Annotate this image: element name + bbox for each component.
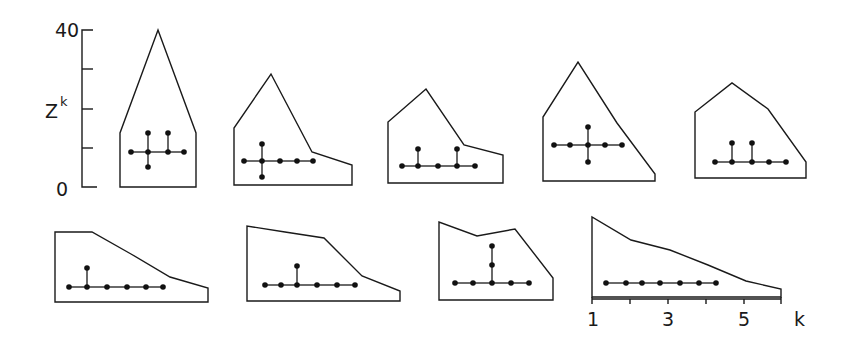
tree-node xyxy=(399,163,405,169)
y-axis-title: Z xyxy=(45,100,58,122)
tree-graph xyxy=(452,243,532,286)
x-axis: 1 3 5 k xyxy=(587,297,805,330)
tree-node xyxy=(277,158,283,164)
tree-node xyxy=(435,163,441,169)
tree-node xyxy=(452,280,458,286)
x-tick-label-5: 5 xyxy=(738,308,750,330)
tree-node xyxy=(623,280,629,286)
tree-node xyxy=(415,163,421,169)
tree-node xyxy=(585,142,591,148)
tree-node xyxy=(310,158,316,164)
panel-9 xyxy=(592,217,781,297)
tree-node xyxy=(314,282,320,288)
tree-node xyxy=(143,284,149,290)
profile-outline xyxy=(55,232,208,302)
tree-node xyxy=(181,149,187,155)
profile-outline xyxy=(388,89,503,183)
profile-outline xyxy=(247,226,400,301)
tree-node xyxy=(602,142,608,148)
tree-node xyxy=(415,146,421,152)
profile-outline xyxy=(234,74,352,185)
tree-node xyxy=(749,159,755,165)
tree-node xyxy=(454,146,460,152)
tree-node xyxy=(489,243,495,249)
tree-node xyxy=(334,282,340,288)
y-tick-label-0: 0 xyxy=(56,178,68,200)
tree-graph xyxy=(603,280,719,286)
tree-node xyxy=(619,142,625,148)
panel-8 xyxy=(439,222,553,300)
tree-node xyxy=(729,159,735,165)
tree-node xyxy=(165,130,171,136)
x-axis-title: k xyxy=(794,308,805,330)
panels-group xyxy=(55,30,806,302)
tree-node xyxy=(712,159,718,165)
profile-outline xyxy=(592,217,781,297)
tree-node xyxy=(84,284,90,290)
tree-graph xyxy=(551,124,625,165)
tree-node xyxy=(489,262,495,268)
tree-node xyxy=(294,158,300,164)
tree-node xyxy=(262,282,268,288)
x-tick-label-3: 3 xyxy=(662,308,674,330)
y-axis-title-superscript: k xyxy=(60,94,68,109)
tree-node xyxy=(259,174,265,180)
profile-outline xyxy=(543,62,655,181)
panel-2 xyxy=(234,74,352,185)
profile-outline xyxy=(439,222,553,300)
tree-node xyxy=(551,142,557,148)
tree-node xyxy=(696,280,702,286)
tree-node xyxy=(145,149,151,155)
tree-node xyxy=(585,159,591,165)
tree-graph xyxy=(399,146,478,169)
panel-7 xyxy=(247,226,400,301)
tree-node xyxy=(294,263,300,269)
figure-canvas: 40 0 Z k 1 3 5 k xyxy=(0,0,846,352)
tree-node xyxy=(677,280,683,286)
profile-outline xyxy=(120,30,196,187)
tree-node xyxy=(165,149,171,155)
tree-node xyxy=(489,280,495,286)
tree-node xyxy=(128,149,134,155)
tree-graph xyxy=(262,263,358,288)
tree-node xyxy=(145,164,151,170)
tree-node xyxy=(84,265,90,271)
tree-node xyxy=(783,159,789,165)
tree-node xyxy=(145,130,151,136)
tree-graph xyxy=(128,130,187,170)
tree-node xyxy=(526,280,532,286)
tree-node xyxy=(713,280,719,286)
tree-node xyxy=(259,141,265,147)
y-axis: 40 0 Z k xyxy=(45,19,97,200)
panel-3 xyxy=(388,89,503,183)
tree-node xyxy=(259,158,265,164)
tree-node xyxy=(657,280,663,286)
y-tick-label-40: 40 xyxy=(55,19,79,41)
x-tick-label-1: 1 xyxy=(587,308,599,330)
tree-node xyxy=(508,280,514,286)
tree-node xyxy=(470,280,476,286)
tree-node xyxy=(160,284,166,290)
panel-6 xyxy=(55,232,208,302)
tree-node xyxy=(749,140,755,146)
tree-graph xyxy=(66,265,166,290)
tree-node xyxy=(603,280,609,286)
tree-node xyxy=(567,142,573,148)
tree-node xyxy=(278,282,284,288)
tree-node xyxy=(729,140,735,146)
tree-node xyxy=(241,158,247,164)
tree-node xyxy=(454,163,460,169)
panel-5 xyxy=(695,83,806,178)
tree-node xyxy=(294,282,300,288)
tree-graph xyxy=(241,141,316,180)
tree-node xyxy=(766,159,772,165)
tree-node xyxy=(124,284,130,290)
panel-1 xyxy=(120,30,196,187)
tree-graph xyxy=(712,140,789,165)
panel-4 xyxy=(543,62,655,181)
tree-node xyxy=(352,282,358,288)
tree-node xyxy=(472,163,478,169)
tree-node xyxy=(585,124,591,130)
tree-node xyxy=(66,284,72,290)
tree-node xyxy=(639,280,645,286)
